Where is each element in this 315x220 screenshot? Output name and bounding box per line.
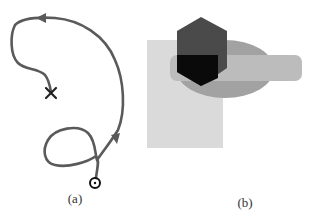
- trajectory-path: [12, 18, 123, 178]
- shapes-diagram: [140, 0, 315, 220]
- panel-a-caption: (a): [55, 191, 95, 207]
- light-rectangle-overlap: [147, 55, 170, 81]
- panel-b: (b): [140, 0, 315, 220]
- trajectory-diagram: [0, 0, 140, 220]
- start-circle-icon: [90, 178, 100, 188]
- arrow-icon: [36, 13, 46, 23]
- panel-b-caption: (b): [225, 195, 265, 211]
- panel-a: (a): [0, 0, 140, 220]
